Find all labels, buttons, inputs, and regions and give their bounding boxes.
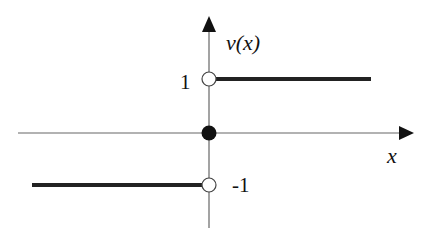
x-axis-arrow-icon [399, 126, 414, 140]
open-point-lower [202, 178, 216, 192]
level-label-upper: 1 [180, 70, 191, 94]
level-label-lower: -1 [232, 173, 250, 197]
sign-function-diagram: v(x) x 1 -1 [0, 0, 436, 233]
y-axis-arrow-icon [202, 16, 216, 32]
open-point-upper [202, 72, 216, 86]
x-axis-label: x [386, 143, 397, 168]
filled-point-origin [202, 126, 217, 141]
y-axis-label: v(x) [226, 30, 260, 55]
